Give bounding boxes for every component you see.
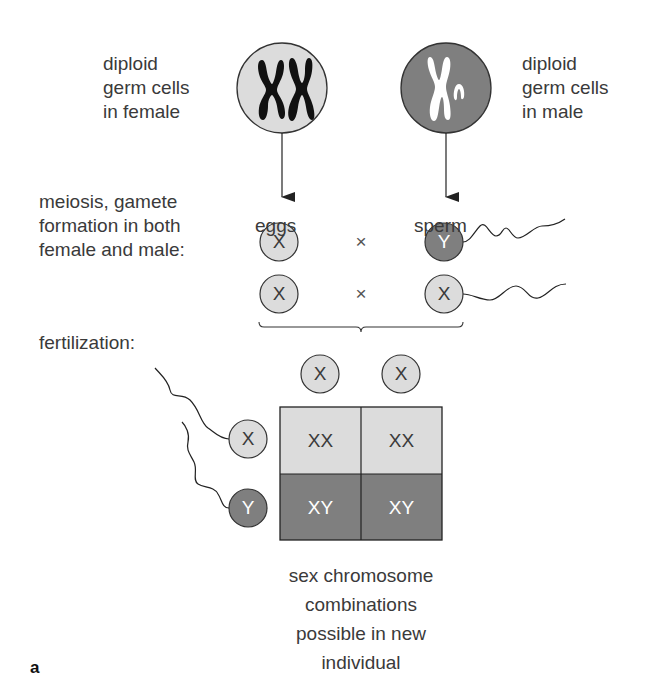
caption: sex chromosome combinations possible in … <box>241 561 481 677</box>
panel-label: a <box>30 658 39 678</box>
caption-line: individual <box>241 648 481 677</box>
side-sperm-letter: X <box>238 427 258 451</box>
female-cell-label: diploid germ cells in female <box>103 52 190 124</box>
cross-symbol: × <box>351 282 371 306</box>
sperm-tail-icon <box>463 219 565 242</box>
label-line: germ cells <box>103 76 190 100</box>
grid-cell: XX <box>280 429 361 453</box>
grid-cell: XY <box>280 496 361 520</box>
gamete-row-1 <box>260 219 565 261</box>
label-line: germ cells <box>522 76 609 100</box>
sperm-tail-icon <box>463 284 566 300</box>
male-germ-cell <box>401 43 491 133</box>
side-sperm-letter: Y <box>238 496 258 520</box>
fertilization-label: fertilization: <box>39 331 135 355</box>
sperm-letter: Y <box>434 230 454 254</box>
caption-line: possible in new <box>241 619 481 648</box>
label-line: meiosis, gamete <box>39 190 185 214</box>
egg-letter: X <box>269 282 289 306</box>
sperm-tail-icon <box>155 368 229 439</box>
label-line: diploid <box>103 52 190 76</box>
sperm-tail-icon <box>182 422 229 508</box>
grid-cell: XX <box>361 429 442 453</box>
gamete-row-2 <box>260 275 566 313</box>
punnett-square <box>280 407 442 540</box>
grid-cell: XY <box>361 496 442 520</box>
label-line: in male <box>522 100 609 124</box>
top-egg-letter: X <box>391 362 411 386</box>
label-line: in female <box>103 100 190 124</box>
cross-symbol: × <box>351 230 371 254</box>
top-egg-letter: X <box>310 362 330 386</box>
female-germ-cell <box>237 43 327 133</box>
meiosis-label: meiosis, gamete formation in both female… <box>39 190 185 262</box>
label-line: female and male: <box>39 238 185 262</box>
caption-line: sex chromosome <box>241 561 481 590</box>
sperm-letter: X <box>434 282 454 306</box>
label-line: diploid <box>522 52 609 76</box>
grouping-brace <box>259 322 463 332</box>
label-line: formation in both <box>39 214 185 238</box>
egg-letter: X <box>269 230 289 254</box>
male-cell-label: diploid germ cells in male <box>522 52 609 124</box>
caption-line: combinations <box>241 590 481 619</box>
